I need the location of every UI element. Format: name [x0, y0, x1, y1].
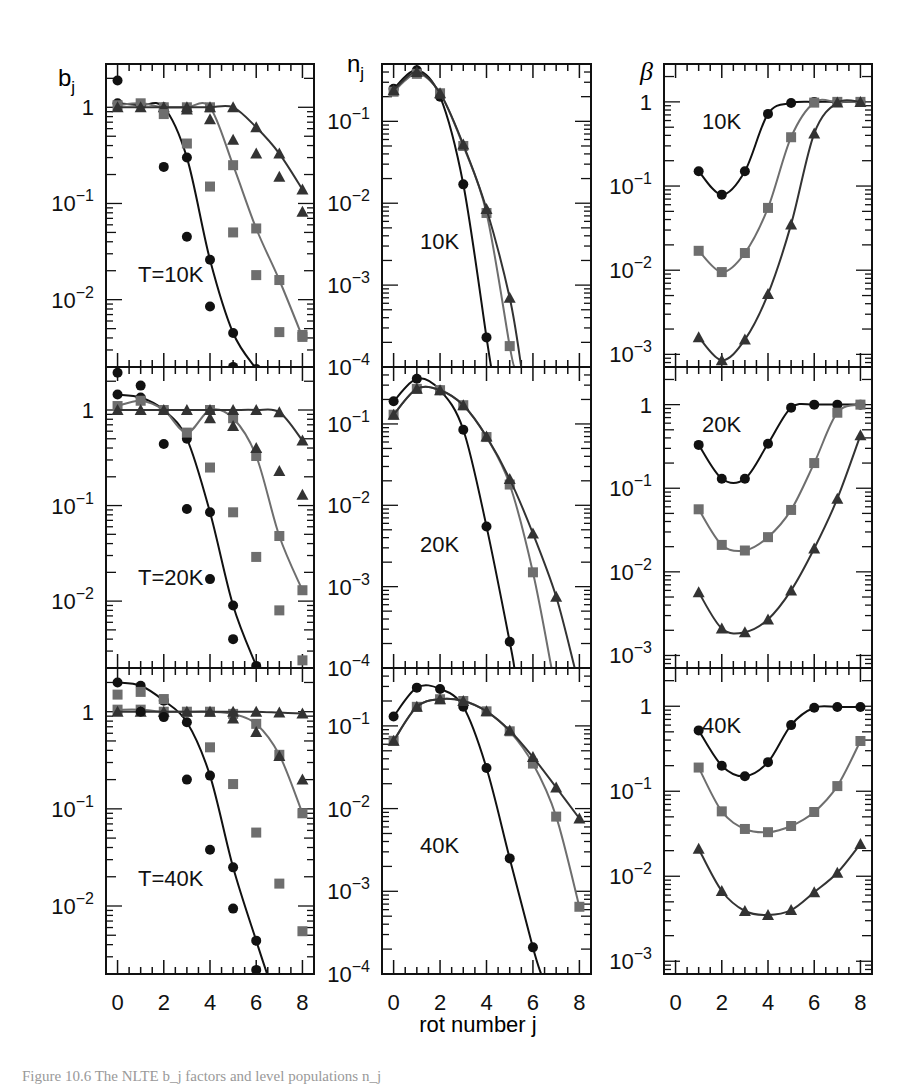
- marker-circle: [763, 109, 773, 119]
- marker-square: [205, 182, 215, 192]
- ytick-label: 10−2: [327, 793, 370, 822]
- ytick-label: 10−2: [51, 890, 94, 919]
- marker-circle: [458, 179, 468, 189]
- ytick-label: 10−2: [51, 585, 94, 614]
- marker-square: [763, 827, 773, 837]
- marker-square: [251, 552, 261, 562]
- panel-nj-20K: 10−110−210−310−420K: [327, 367, 591, 681]
- marker-circle: [159, 439, 169, 449]
- marker-square: [251, 223, 261, 233]
- marker-circle: [458, 425, 468, 435]
- marker-square: [182, 428, 192, 438]
- marker-circle: [717, 474, 727, 484]
- marker-circle: [482, 332, 492, 342]
- marker-triangle: [693, 586, 705, 597]
- marker-square: [251, 270, 261, 280]
- marker-circle: [809, 400, 819, 410]
- ylabel-nj: nj: [347, 50, 364, 83]
- xlabel: rot number j: [419, 1012, 536, 1037]
- panel-beta-40K: 110−110−210−30246840K: [609, 668, 872, 1015]
- ytick-label: 1: [640, 393, 652, 418]
- marker-square: [855, 736, 865, 746]
- panel-beta-20K: 110−110−210−320K: [609, 367, 872, 668]
- ytick-label: 10−2: [51, 284, 94, 313]
- marker-circle: [528, 942, 538, 952]
- ytick-label: 10−3: [609, 338, 652, 367]
- curve-square: [118, 710, 303, 814]
- marker-triangle: [854, 838, 866, 849]
- marker-square: [809, 98, 819, 108]
- marker-circle: [717, 190, 727, 200]
- marker-triangle: [739, 905, 751, 916]
- ytick-label: 10−4: [327, 958, 370, 987]
- marker-circle: [855, 702, 865, 712]
- marker-circle: [205, 255, 215, 265]
- marker-square: [786, 821, 796, 831]
- ytick-label: 10−3: [327, 269, 370, 298]
- marker-square: [740, 546, 750, 556]
- ytick-label: 10−2: [327, 187, 370, 216]
- ytick-label: 1: [82, 95, 94, 120]
- panel-label: T=10K: [138, 262, 204, 287]
- marker-triangle: [296, 183, 308, 194]
- curve-square: [394, 699, 580, 907]
- curve-circle: [118, 683, 268, 977]
- ytick-label: 10−2: [609, 556, 652, 585]
- marker-triangle: [693, 843, 705, 854]
- marker-circle: [136, 707, 146, 717]
- marker-circle: [113, 75, 123, 85]
- marker-square: [551, 812, 561, 822]
- panel-bj-20K: 110−110−2T=20K: [51, 367, 314, 671]
- marker-triangle: [273, 171, 285, 182]
- marker-square: [159, 694, 169, 704]
- marker-square: [274, 275, 284, 285]
- marker-triangle: [527, 528, 539, 539]
- curve-circle: [394, 685, 541, 974]
- marker-circle: [159, 712, 169, 722]
- panel-label: 40K: [702, 713, 741, 738]
- marker-circle: [182, 232, 192, 242]
- ytick-label: 1: [82, 398, 94, 423]
- xtick-label: 8: [854, 990, 866, 1015]
- marker-circle: [205, 845, 215, 855]
- panel-nj-40K: 10−110−210−310−40246840K: [327, 668, 591, 1015]
- marker-square: [786, 132, 796, 142]
- ytick-label: 1: [82, 700, 94, 725]
- ytick-label: 10−1: [51, 187, 94, 216]
- marker-triangle: [762, 288, 774, 299]
- marker-circle: [205, 507, 215, 517]
- marker-circle: [228, 862, 238, 872]
- ytick-label: 10−1: [609, 775, 652, 804]
- marker-circle: [251, 385, 261, 395]
- xtick-label: 4: [204, 990, 216, 1015]
- curve-square: [118, 401, 303, 591]
- ytick-label: 10−1: [327, 105, 370, 134]
- marker-circle: [113, 390, 123, 400]
- marker-square: [297, 926, 307, 936]
- marker-square: [182, 139, 192, 149]
- marker-circle: [113, 677, 123, 687]
- marker-square: [694, 504, 704, 514]
- marker-circle: [740, 771, 750, 781]
- marker-triangle: [785, 904, 797, 915]
- marker-square: [228, 507, 238, 517]
- marker-square: [786, 505, 796, 515]
- curve-triangle: [699, 100, 861, 360]
- marker-circle: [482, 763, 492, 773]
- marker-circle: [786, 403, 796, 413]
- marker-square: [505, 341, 515, 351]
- marker-square: [297, 808, 307, 818]
- ytick-label: 1: [640, 694, 652, 719]
- marker-circle: [505, 853, 515, 863]
- marker-circle: [251, 936, 261, 946]
- marker-square: [228, 160, 238, 170]
- panel-label: T=20K: [138, 565, 204, 590]
- marker-square: [297, 585, 307, 595]
- marker-circle: [505, 637, 515, 647]
- marker-circle: [763, 439, 773, 449]
- marker-circle: [228, 634, 238, 644]
- marker-triangle: [250, 148, 262, 159]
- marker-circle: [205, 771, 215, 781]
- curve-square: [394, 74, 515, 367]
- curve-square: [394, 387, 552, 668]
